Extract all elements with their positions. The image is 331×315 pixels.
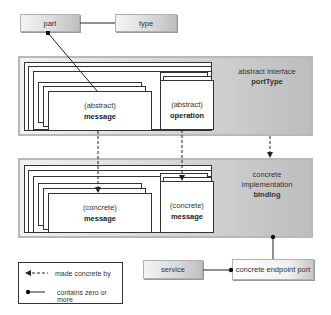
containment-dot-icon xyxy=(46,31,50,35)
connector-lines xyxy=(0,0,331,315)
arrowhead-icons xyxy=(95,152,273,193)
